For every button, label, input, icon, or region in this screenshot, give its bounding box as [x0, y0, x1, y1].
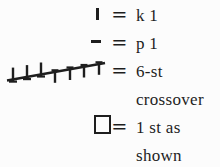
open-square-icon — [94, 115, 111, 134]
legend-entry-k1: = k 1 — [0, 2, 220, 30]
equals-sign: = — [112, 29, 136, 57]
p1-dash-icon — [91, 40, 101, 43]
knitting-chart-key: = k 1 = p 1 — [0, 0, 220, 167]
legend-entry-crossover: = 6-st crossover — [0, 58, 220, 114]
legend-entry-st-as-shown: = 1 st as shown — [0, 114, 220, 167]
equals-sign: = — [112, 113, 136, 141]
k1-tick-icon — [96, 8, 99, 20]
legend-label-st-as-shown: 1 st as shown — [136, 114, 220, 167]
legend-label-p1: p 1 — [136, 30, 220, 58]
equals-sign: = — [112, 1, 136, 29]
six-stitch-crossover-icon — [6, 55, 108, 87]
legend-label-k1: k 1 — [136, 2, 220, 30]
equals-sign: = — [112, 57, 136, 85]
legend-label-crossover: 6-st crossover — [136, 58, 220, 114]
